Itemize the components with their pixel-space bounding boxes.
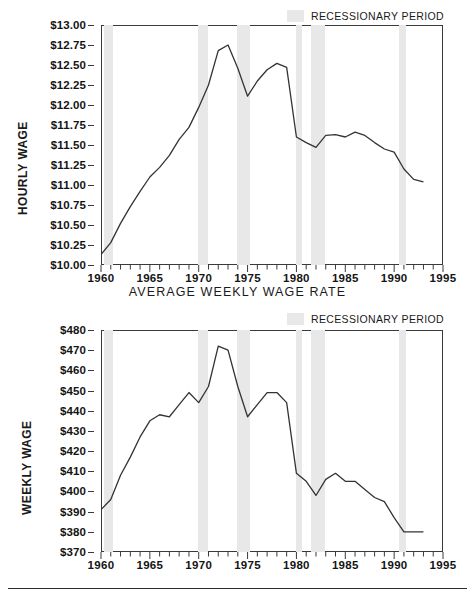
plot-area-hourly-wage: [101, 25, 443, 265]
y-tick-label: $10.25: [50, 239, 86, 251]
chart-caption: AVERAGE WEEKLY WAGE RATE: [0, 285, 475, 299]
bottom-divider: [8, 588, 467, 589]
x-tick-label: 1985: [332, 559, 359, 571]
x-tick-label: 1975: [234, 272, 261, 284]
y-tick-mark: [88, 225, 94, 226]
legend-swatch-icon: [287, 313, 304, 325]
x-tick-label: 1990: [381, 272, 408, 284]
y-tick-mark: [88, 370, 94, 371]
x-tick-label: 1980: [283, 272, 310, 284]
legend-label: RECESSIONARY PERIOD: [311, 10, 444, 22]
y-tick-label: $450: [60, 385, 86, 397]
y-tick-mark: [88, 431, 94, 432]
legend-swatch-icon: [287, 10, 304, 22]
y-tick-label: $11.25: [51, 159, 86, 171]
y-tick-mark: [88, 85, 94, 86]
y-tick-label: $10.50: [50, 219, 86, 231]
y-tick-label: $440: [60, 405, 86, 417]
y-tick-mark: [88, 145, 94, 146]
legend-recessionary-period: RECESSIONARY PERIOD: [287, 10, 444, 22]
legend-recessionary-period-bottom: RECESSIONARY PERIOD: [287, 313, 444, 325]
x-tick-label: 1975: [234, 559, 261, 571]
x-tick-label: 1990: [381, 559, 408, 571]
x-tick-label: 1960: [88, 559, 115, 571]
y-tick-mark: [88, 512, 94, 513]
y-tick-label: $390: [60, 506, 86, 518]
minor-ticks-bottom: [101, 330, 443, 552]
y-tick-mark: [88, 532, 94, 533]
y-tick-mark: [88, 265, 94, 266]
x-tick-label: 1960: [88, 272, 115, 284]
y-tick-label: $13.00: [50, 19, 86, 31]
y-tick-mark: [88, 330, 94, 331]
x-tick-label: 1965: [136, 272, 163, 284]
y-tick-label: $420: [60, 445, 86, 457]
y-tick-label: $11.00: [51, 179, 86, 191]
y-tick-mark: [88, 451, 94, 452]
plot-area-weekly-wage: [101, 330, 443, 552]
y-tick-label: $470: [60, 344, 86, 356]
y-tick-mark: [88, 350, 94, 351]
y-tick-mark: [88, 391, 94, 392]
y-tick-label: $12.50: [50, 59, 86, 71]
y-tick-label: $460: [60, 364, 86, 376]
y-tick-mark: [88, 45, 94, 46]
y-tick-label: $12.75: [50, 39, 86, 51]
y-tick-label: $11.50: [51, 139, 86, 151]
y-tick-mark: [88, 105, 94, 106]
y-tick-label: $400: [60, 485, 86, 497]
y-tick-label: $380: [60, 526, 86, 538]
y-tick-label: $10.75: [50, 199, 86, 211]
y-tick-mark: [88, 205, 94, 206]
x-tick-label: 1970: [185, 272, 212, 284]
y-tick-label: $480: [60, 324, 86, 336]
y-tick-mark: [88, 165, 94, 166]
y-tick-label: $12.00: [50, 99, 86, 111]
y-tick-label: $12.25: [50, 79, 86, 91]
y-tick-mark: [88, 411, 94, 412]
hourly-wage-chart: RECESSIONARY PERIOD HOURLY WAGE $13.00$1…: [0, 0, 475, 300]
y-axis-ticks-bottom: $480$470$460$450$440$430$420$410$400$390…: [26, 330, 94, 552]
y-tick-label: $370: [60, 546, 86, 558]
x-tick-label: 1965: [136, 559, 163, 571]
y-tick-label: $10.00: [50, 259, 86, 271]
x-tick-label: 1980: [283, 559, 310, 571]
y-axis-ticks-top: $13.00$12.75$12.50$12.25$12.00$11.75$11.…: [22, 25, 94, 265]
x-tick-label: 1970: [185, 559, 212, 571]
y-tick-label: $410: [60, 465, 86, 477]
y-tick-mark: [88, 491, 94, 492]
x-tick-label: 1985: [332, 272, 359, 284]
y-tick-mark: [88, 185, 94, 186]
minor-ticks-top: [101, 25, 443, 265]
wage-charts-page: RECESSIONARY PERIOD HOURLY WAGE $13.00$1…: [0, 0, 475, 598]
x-tick-label: 1995: [430, 272, 457, 284]
y-tick-label: $11.75: [51, 119, 86, 131]
x-tick-label: 1995: [430, 559, 457, 571]
y-tick-mark: [88, 25, 94, 26]
y-tick-mark: [88, 125, 94, 126]
legend-label: RECESSIONARY PERIOD: [311, 313, 444, 325]
y-tick-mark: [88, 471, 94, 472]
y-tick-mark: [88, 552, 94, 553]
y-tick-label: $430: [60, 425, 86, 437]
x-axis-ticks-bottom: 19601965197019751980198519901995: [101, 559, 443, 575]
weekly-wage-chart: RECESSIONARY PERIOD WEEKLY WAGE $480$470…: [0, 300, 475, 598]
y-tick-mark: [88, 65, 94, 66]
y-tick-mark: [88, 245, 94, 246]
